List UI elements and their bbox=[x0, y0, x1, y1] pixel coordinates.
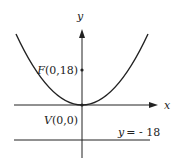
focus-point bbox=[80, 68, 83, 71]
y-axis-label: y bbox=[76, 10, 84, 23]
y-axis-arrow-icon bbox=[79, 29, 85, 38]
focus-label: F(0,18) bbox=[36, 64, 78, 77]
vertex-point bbox=[80, 103, 83, 106]
vertex-label: V(0,0) bbox=[44, 114, 78, 127]
parabola-diagram: x y F(0,18) V(0,0) y= - 18 bbox=[0, 0, 179, 165]
x-axis-label: x bbox=[164, 99, 171, 112]
x-axis-arrow-icon bbox=[149, 102, 158, 108]
directrix-label: y= - 18 bbox=[117, 126, 160, 139]
